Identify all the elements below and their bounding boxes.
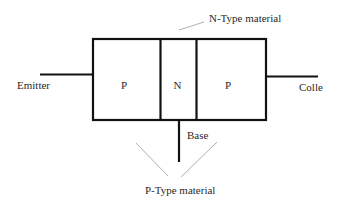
n-type-annotation: N-Type material bbox=[209, 12, 281, 24]
n-type-leader-line bbox=[179, 22, 204, 30]
emitter-label: Emitter bbox=[17, 79, 50, 91]
pnp-transistor-diagram: P N P Emitter Colle Base N-Type material… bbox=[0, 0, 344, 204]
p-type-annotation: P-Type material bbox=[145, 184, 215, 196]
region-base-n-label: N bbox=[174, 79, 182, 91]
p-type-leader-line-left bbox=[136, 143, 168, 176]
p-type-leader-line-right bbox=[181, 142, 217, 177]
region-emitter-p-label: P bbox=[121, 79, 127, 91]
base-label: Base bbox=[187, 129, 209, 141]
collector-label: Colle bbox=[299, 81, 323, 93]
region-collector-p-label: P bbox=[225, 79, 231, 91]
